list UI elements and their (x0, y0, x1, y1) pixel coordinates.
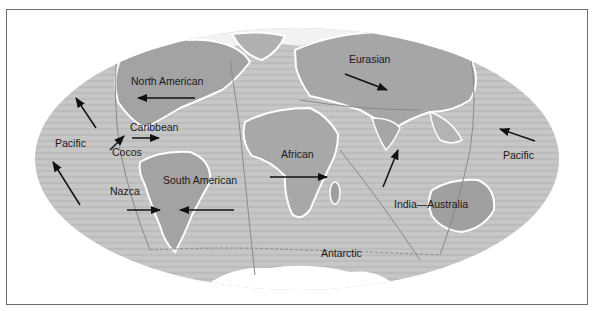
label-pacific-west: Pacific (55, 138, 86, 149)
label-pacific-east: Pacific (503, 150, 534, 161)
label-north-american: North American (131, 76, 203, 87)
label-india-australia: India—Australia (394, 199, 468, 210)
label-antarctic: Antarctic (321, 248, 362, 259)
madagascar (330, 182, 340, 204)
label-south-american: South American (163, 175, 237, 186)
label-caribbean: Caribbean (130, 122, 178, 133)
label-cocos: Cocos (112, 147, 142, 158)
label-eurasian: Eurasian (349, 54, 390, 65)
label-african: African (281, 149, 314, 160)
label-nazca: Nazca (110, 186, 140, 197)
